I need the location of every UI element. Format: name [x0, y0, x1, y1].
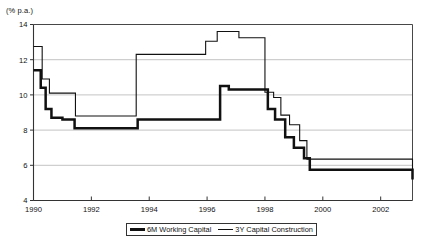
- gridlines: [34, 60, 413, 166]
- svg-text:8: 8: [23, 126, 27, 135]
- chart-plot-area: 468101214 1990199219941996199820002002: [0, 0, 428, 243]
- x-axis-ticks: 1990199219941996199820002002: [25, 197, 389, 215]
- data-series: [34, 32, 413, 180]
- svg-text:1998: 1998: [256, 205, 273, 214]
- svg-text:2000: 2000: [314, 205, 331, 214]
- y-axis-ticks: 468101214: [19, 20, 33, 205]
- svg-text:6: 6: [23, 161, 27, 170]
- legend-label-3y-capital-construction: 3Y Capital Construction: [235, 226, 313, 233]
- svg-text:2002: 2002: [372, 205, 389, 214]
- legend-item-6m-working-capital: 6M Working Capital: [130, 226, 211, 233]
- svg-text:1996: 1996: [199, 205, 216, 214]
- svg-text:12: 12: [19, 56, 27, 65]
- svg-text:1994: 1994: [141, 205, 158, 214]
- thin-line-swatch: [218, 229, 233, 230]
- svg-text:1992: 1992: [83, 205, 100, 214]
- chart-container: (% p.a.) 468101214 199019921994199619982…: [0, 0, 428, 243]
- plot-frame: [34, 25, 413, 201]
- chart-legend: 6M Working Capital 3Y Capital Constructi…: [126, 223, 317, 236]
- legend-label-6m-working-capital: 6M Working Capital: [147, 226, 211, 233]
- svg-text:4: 4: [23, 196, 27, 205]
- svg-text:10: 10: [19, 91, 27, 100]
- thick-line-swatch: [130, 228, 145, 231]
- svg-text:14: 14: [19, 20, 27, 29]
- svg-text:1990: 1990: [25, 205, 42, 214]
- legend-item-3y-capital-construction: 3Y Capital Construction: [218, 226, 313, 233]
